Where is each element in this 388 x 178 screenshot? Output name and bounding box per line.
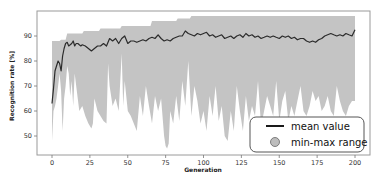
chart: 0255075100125150175200 5060708090 Genera… [0,0,388,178]
x-tick-label: 0 [50,159,54,167]
x-axis-title: Generation [184,166,222,173]
x-tick-label: 75 [161,159,169,167]
x-tick-label: 200 [349,159,361,167]
x-tick-label: 175 [311,159,323,167]
x-tick-label: 50 [124,159,132,167]
legend-mean-label: mean value [291,121,350,132]
legend-range-label: min-max range [291,137,368,148]
y-tick-label: 50 [24,132,32,140]
legend-range-circle-icon [271,138,280,147]
x-tick-label: 150 [273,159,285,167]
y-tick-label: 60 [24,107,32,115]
y-tick-label: 90 [24,32,32,40]
y-tick-label: 80 [24,57,32,65]
y-tick-label: 70 [24,82,32,90]
x-tick-label: 125 [235,159,247,167]
y-axis-title: Recognition rate [%] [8,51,16,121]
x-tick-label: 25 [86,159,94,167]
legend: mean value min-max range [250,117,368,152]
